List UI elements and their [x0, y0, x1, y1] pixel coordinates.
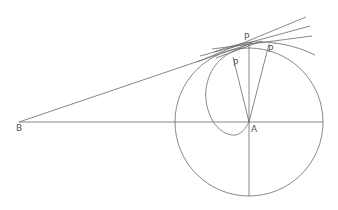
geometry-figure: B A P P ′ P ″	[0, 0, 338, 210]
tangent-line-1	[197, 17, 306, 62]
diagram-canvas: B A P P ′ P ″	[0, 0, 338, 210]
tangent-line-2	[200, 26, 310, 56]
label-P-double-prime-sup: ″	[274, 41, 277, 48]
label-P-prime-sup: ′	[239, 55, 241, 62]
loop-curve	[206, 43, 252, 135]
line-A-P2	[249, 44, 269, 122]
label-B: B	[16, 123, 22, 133]
tangent-line-3	[212, 36, 312, 49]
line-BP	[19, 43, 252, 122]
label-P: P	[244, 32, 250, 42]
label-A: A	[251, 124, 258, 134]
